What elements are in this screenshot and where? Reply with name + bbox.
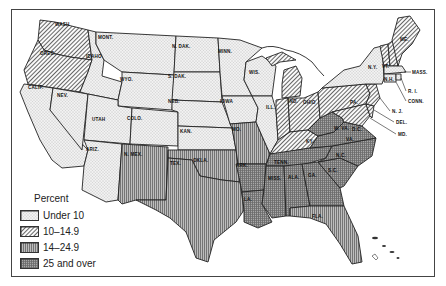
legend-label: 25 and over xyxy=(43,258,96,269)
svg-text:CALIF.: CALIF. xyxy=(28,85,44,90)
svg-text:R. I.: R. I. xyxy=(408,89,417,94)
state-colo[interactable] xyxy=(130,108,178,146)
svg-text:ALA.: ALA. xyxy=(288,175,300,180)
svg-text:ARK.: ARK. xyxy=(236,163,248,168)
svg-text:NEV.: NEV. xyxy=(57,93,68,98)
map-legend: Percent Under 10 10–14.9 14–24.9 25 and … xyxy=(20,193,96,271)
svg-text:WASH: WASH xyxy=(55,22,70,27)
diagonal-pattern-swatch xyxy=(20,226,39,237)
svg-text:COLO.: COLO. xyxy=(127,116,143,121)
svg-text:VT.: VT. xyxy=(382,64,389,69)
vertical-pattern-swatch xyxy=(20,242,39,253)
legend-label: 14–24.9 xyxy=(43,242,79,253)
svg-text:MISS.: MISS. xyxy=(268,176,282,181)
state-neb[interactable] xyxy=(172,100,232,128)
legend-label: 10–14.9 xyxy=(43,226,79,237)
svg-text:IDAHO: IDAHO xyxy=(86,54,102,59)
svg-text:ME.: ME. xyxy=(400,37,409,42)
svg-text:IND.: IND. xyxy=(288,99,298,104)
svg-text:VA.: VA. xyxy=(346,137,354,142)
svg-text:WIS.: WIS. xyxy=(249,70,260,75)
svg-text:UTAH: UTAH xyxy=(92,117,106,122)
svg-text:ILL.: ILL. xyxy=(266,105,275,110)
svg-text:MONT.: MONT. xyxy=(98,35,113,40)
svg-text:PA.: PA. xyxy=(350,100,358,105)
svg-text:DEL.: DEL. xyxy=(396,120,407,125)
svg-text:WYO.: WYO. xyxy=(120,77,133,82)
dots-pattern-swatch xyxy=(20,210,39,221)
svg-text:W. VA.: W. VA. xyxy=(334,126,349,131)
islands xyxy=(372,237,400,260)
legend-item-25-and-over: 25 and over xyxy=(20,255,96,271)
svg-text:NEB.: NEB. xyxy=(168,99,180,104)
svg-text:CONN.: CONN. xyxy=(408,99,424,104)
svg-text:S. DAK.: S. DAK. xyxy=(168,74,186,79)
svg-text:MD.: MD. xyxy=(398,132,407,137)
svg-text:N. DAK.: N. DAK. xyxy=(172,44,191,49)
legend-item-under-10: Under 10 xyxy=(20,207,96,223)
svg-text:D.C.: D.C. xyxy=(352,127,362,132)
svg-text:IOWA: IOWA xyxy=(220,99,234,104)
svg-text:MO.: MO. xyxy=(232,127,241,132)
grid-pattern-swatch xyxy=(20,258,39,269)
svg-text:S.C.: S.C. xyxy=(328,168,338,173)
svg-text:GA.: GA. xyxy=(308,173,317,178)
legend-title: Percent xyxy=(34,193,96,204)
legend-label: Under 10 xyxy=(43,210,84,221)
svg-text:OREG.: OREG. xyxy=(40,51,56,56)
svg-text:N.C.: N.C. xyxy=(336,153,346,158)
svg-text:KAN.: KAN. xyxy=(180,129,192,134)
legend-item-14-24-9: 14–24.9 xyxy=(20,239,96,255)
svg-text:OHIO: OHIO xyxy=(303,100,316,105)
state-ndak[interactable] xyxy=(174,36,220,72)
svg-text:MINN.: MINN. xyxy=(218,49,232,54)
svg-text:N. J.: N. J. xyxy=(392,109,403,114)
svg-text:MASS.: MASS. xyxy=(412,70,428,75)
svg-text:N.Y.: N.Y. xyxy=(368,65,377,70)
svg-text:N.H.: N.H. xyxy=(384,77,394,82)
svg-text:TEX.: TEX. xyxy=(170,161,181,166)
legend-item-10-14-9: 10–14.9 xyxy=(20,223,96,239)
svg-text:KY.: KY. xyxy=(306,139,314,144)
svg-text:FLA.: FLA. xyxy=(312,214,323,219)
state-fla[interactable] xyxy=(290,206,362,264)
svg-text:LA.: LA. xyxy=(244,197,252,202)
svg-text:OKLA.: OKLA. xyxy=(193,158,208,163)
svg-text:N. MEX.: N. MEX. xyxy=(124,152,143,157)
svg-text:TENN.: TENN. xyxy=(274,160,289,165)
state-ri[interactable] xyxy=(396,74,401,80)
svg-text:ARIZ.: ARIZ. xyxy=(86,147,99,152)
